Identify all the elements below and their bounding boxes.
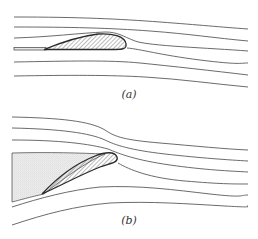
streamline-a-6 — [14, 75, 248, 87]
caption-b: (b) — [109, 214, 149, 227]
airfoil-a — [44, 34, 126, 50]
flow-diagram — [0, 0, 258, 239]
panel-b — [12, 117, 248, 225]
streamline-a-4-wake — [127, 48, 248, 63]
streamline-a-5 — [14, 61, 248, 75]
streamline-b-4 — [118, 163, 248, 184]
leading-plate-a — [14, 48, 46, 51]
caption-a: (a) — [109, 88, 149, 101]
streamline-b-1 — [12, 117, 248, 150]
panel-a — [14, 17, 248, 87]
